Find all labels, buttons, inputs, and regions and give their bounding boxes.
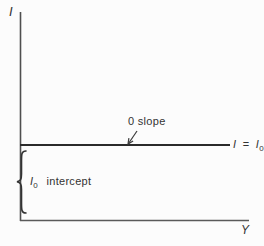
slope-annotation: 0 slope <box>128 116 166 127</box>
intercept-subscript: 0 <box>33 181 38 190</box>
intercept-word: intercept <box>46 175 91 187</box>
y-axis-label: I <box>9 5 13 18</box>
line-label: I = I0 <box>233 139 264 150</box>
graph-figure: I Y 0 slope I = I0 I0 intercept <box>0 0 264 246</box>
line-label-rhs-subscript: 0 <box>259 144 264 153</box>
intercept-annotation: I0 intercept <box>30 176 91 187</box>
intercept-brace-icon <box>17 151 26 213</box>
x-axis-label: Y <box>241 224 249 236</box>
line-label-equals: = <box>243 138 250 150</box>
line-label-lhs: I <box>233 138 236 150</box>
